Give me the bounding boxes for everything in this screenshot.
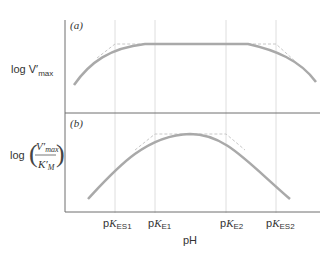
tick-pkes1: pKES1: [103, 217, 132, 231]
curve-b: [88, 134, 290, 199]
panel-a-label: (a): [70, 19, 83, 32]
guide-lines: [115, 20, 276, 213]
tick-pkes2: pKES2: [266, 217, 295, 231]
panel-b-label: (b): [70, 117, 83, 130]
xaxis-label: pH: [183, 234, 197, 246]
svg-text:K′M: K′M: [37, 158, 56, 172]
svg-text:): ): [56, 139, 65, 168]
svg-text:log: log: [10, 149, 25, 161]
tick-pke1: pKE1: [148, 217, 172, 231]
curve-a: [74, 44, 316, 85]
tick-pke2: pKE2: [220, 217, 244, 231]
diagram: (a) (b) log V′max log ( V′max K′M ) pKES…: [0, 0, 332, 253]
ylabel-b: log ( V′max K′M ): [10, 139, 65, 172]
ylabel-a: log V′max: [11, 63, 53, 78]
